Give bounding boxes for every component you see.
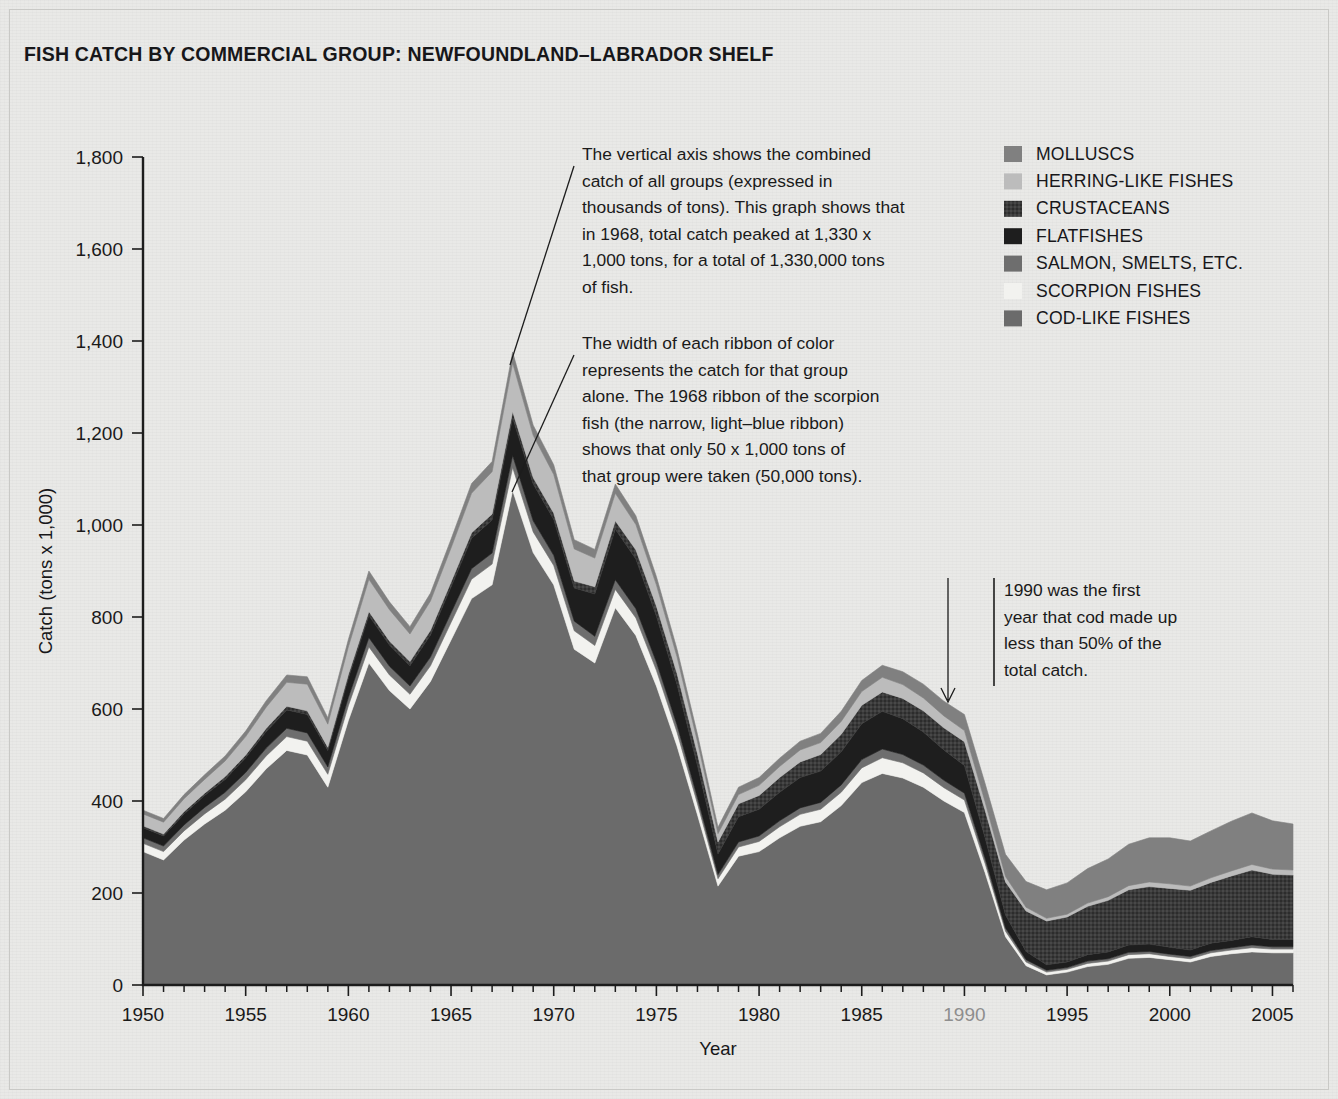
legend-swatch [1004, 283, 1022, 299]
annotation-line: 1990 was the first [1004, 580, 1140, 600]
annotation-line: catch of all groups (expressed in [582, 171, 832, 191]
x-tick-label: 1955 [225, 1004, 267, 1025]
legend-swatch [1004, 228, 1022, 244]
legend-label: SALMON, SMELTS, ETC. [1036, 253, 1243, 273]
annotation-line: year that cod made up [1004, 607, 1177, 627]
y-tick-label: 400 [91, 791, 123, 812]
y-tick-label: 800 [91, 607, 123, 628]
y-tick-label: 1,200 [75, 423, 123, 444]
x-tick-label: 1985 [841, 1004, 883, 1025]
legend-label: FLATFISHES [1036, 226, 1143, 246]
legend-item[interactable]: HERRING-LIKE FISHES [1004, 171, 1233, 191]
legend-label: HERRING-LIKE FISHES [1036, 171, 1233, 191]
annotation-line: total catch. [1004, 660, 1088, 680]
x-tick-label: 1975 [635, 1004, 677, 1025]
chart-legend: MOLLUSCSHERRING-LIKE FISHESCRUSTACEANSFL… [1004, 144, 1243, 328]
x-tick-label: 1990 [943, 1004, 985, 1025]
legend-swatch [1004, 310, 1022, 326]
legend-label: COD-LIKE FISHES [1036, 308, 1191, 328]
legend-label: CRUSTACEANS [1036, 198, 1170, 218]
annotation-line: The width of each ribbon of color [582, 333, 835, 353]
x-tick-label: 1950 [122, 1004, 164, 1025]
legend-item[interactable]: MOLLUSCS [1004, 144, 1134, 164]
y-tick-label: 600 [91, 699, 123, 720]
legend-label: SCORPION FISHES [1036, 281, 1201, 301]
annotation-ribbon-width: The width of each ribbon of colorreprese… [582, 333, 879, 486]
annotation-line: fish (the narrow, light–blue ribbon) [582, 413, 844, 433]
annotation-line: thousands of tons). This graph shows tha… [582, 197, 905, 217]
legend-swatch [1004, 146, 1022, 162]
annotation-line: shows that only 50 x 1,000 tons of [582, 439, 845, 459]
legend-swatch [1004, 173, 1022, 189]
y-tick-label: 1,000 [75, 515, 123, 536]
legend-item[interactable]: CRUSTACEANS [1004, 198, 1170, 218]
annotation-line: in 1968, total catch peaked at 1,330 x [582, 224, 871, 244]
annotation-line: The vertical axis shows the combined [582, 144, 871, 164]
legend-item[interactable]: SALMON, SMELTS, ETC. [1004, 253, 1243, 273]
legend-item[interactable]: COD-LIKE FISHES [1004, 308, 1191, 328]
y-tick-label: 1,400 [75, 331, 123, 352]
annotation-line: that group were taken (50,000 tons). [582, 466, 862, 486]
fish-catch-stacked-area-chart: 02004006008001,0001,2001,4001,6001,80019… [0, 0, 1338, 1099]
x-tick-label: 1960 [327, 1004, 369, 1025]
y-tick-label: 200 [91, 883, 123, 904]
annotation-line: represents the catch for that group [582, 360, 848, 380]
y-tick-label: 1,600 [75, 239, 123, 260]
leader-line-total-catch [510, 166, 574, 365]
x-axis-title: Year [699, 1038, 736, 1059]
x-tick-label: 1980 [738, 1004, 780, 1025]
annotation-line: of fish. [582, 277, 633, 297]
annotation-total-catch: The vertical axis shows the combinedcatc… [582, 144, 905, 297]
x-tick-label: 2000 [1149, 1004, 1191, 1025]
y-tick-label: 0 [112, 975, 123, 996]
legend-swatch [1004, 256, 1022, 272]
x-tick-label: 1965 [430, 1004, 472, 1025]
annotation-line: less than 50% of the [1004, 633, 1162, 653]
legend-swatch [1004, 201, 1022, 217]
annotation-line: 1,000 tons, for a total of 1,330,000 ton… [582, 250, 885, 270]
x-tick-label: 2005 [1251, 1004, 1293, 1025]
x-tick-label: 1970 [533, 1004, 575, 1025]
x-tick-label: 1995 [1046, 1004, 1088, 1025]
legend-item[interactable]: FLATFISHES [1004, 226, 1143, 246]
annotation-1990-cod: 1990 was the firstyear that cod made upl… [1004, 580, 1177, 680]
y-tick-label: 1,800 [75, 147, 123, 168]
annotation-line: alone. The 1968 ribbon of the scorpion [582, 386, 879, 406]
y-axis-title: Catch (tons x 1,000) [35, 488, 56, 655]
legend-item[interactable]: SCORPION FISHES [1004, 281, 1201, 301]
arrow-1990-icon [941, 578, 955, 702]
legend-label: MOLLUSCS [1036, 144, 1134, 164]
